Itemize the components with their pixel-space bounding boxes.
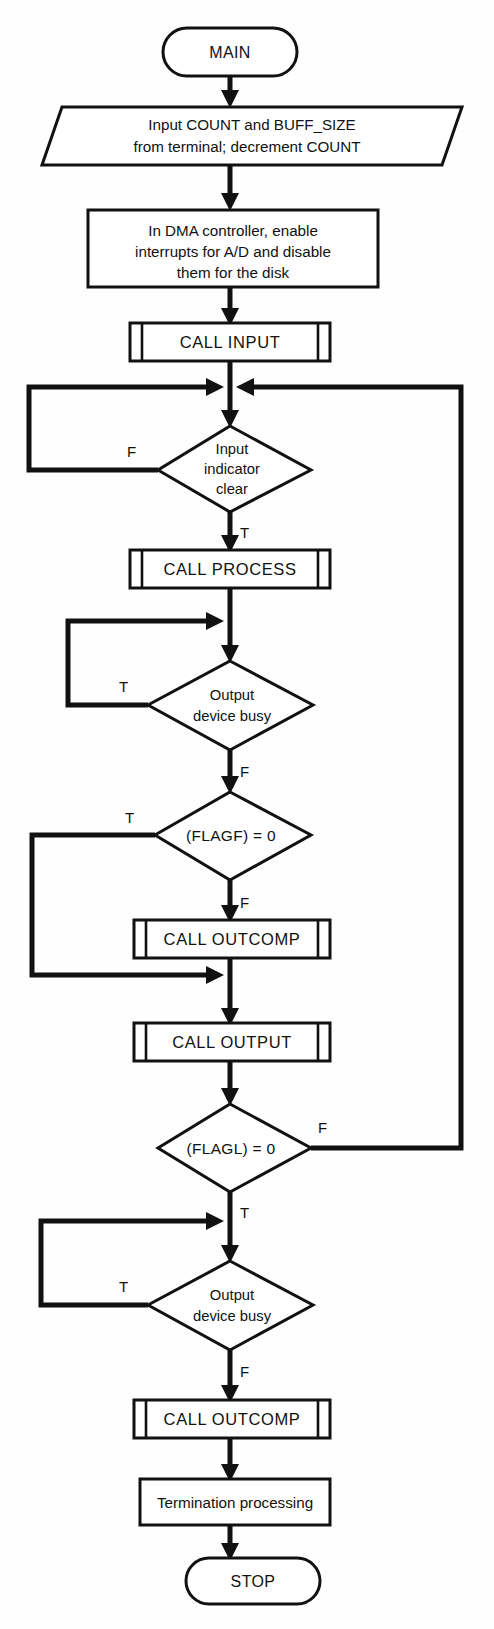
node-dec-busy2-line2: device busy [193, 1308, 272, 1324]
connector-callinput-to-decision1 [221, 361, 239, 428]
node-call-outcomp-1-label: CALL OUTCOMP [164, 930, 301, 948]
node-dec-input-line1: Input [216, 441, 249, 457]
connector-flagf-to-outcomp1 [221, 880, 239, 923]
node-dec-busy1-line2: device busy [193, 708, 272, 724]
node-dec-flagl-label: (FLAGL) = 0 [186, 1140, 275, 1157]
branch-label-flagf-false: F [240, 894, 249, 911]
node-call-process[interactable]: CALL PROCESS [130, 550, 330, 588]
branch-label-flagf-true: T [125, 809, 134, 826]
node-call-output[interactable]: CALL OUTPUT [134, 1023, 330, 1061]
connector-flagl-to-outbusy2 [221, 1192, 239, 1263]
node-termination-label: Termination processing [157, 1494, 313, 1511]
node-decision-flagf[interactable]: (FLAGF) = 0 [155, 792, 311, 880]
connector-outbusy2-to-outcomp2 [221, 1350, 239, 1403]
node-stop[interactable]: STOP [186, 1558, 320, 1604]
node-dec-input-line2: indicator [204, 461, 260, 477]
connector-input-to-dma [221, 166, 239, 211]
node-decision-input-indicator[interactable]: Input indicator clear [158, 426, 311, 512]
node-dma-controller[interactable]: In DMA controller, enable interrupts for… [88, 210, 378, 287]
node-call-output-label: CALL OUTPUT [172, 1033, 292, 1051]
node-input-line1: Input COUNT and BUFF_SIZE [148, 116, 355, 133]
node-dec-busy2-line1: Output [210, 1287, 254, 1303]
node-call-outcomp-1[interactable]: CALL OUTCOMP [134, 920, 330, 958]
node-dma-line2: interrupts for A/D and disable [135, 243, 331, 260]
node-dec-flagf-label: (FLAGF) = 0 [186, 827, 276, 844]
node-call-outcomp-2[interactable]: CALL OUTCOMP [134, 1400, 330, 1438]
branch-label-outbusy1-true: T [119, 678, 128, 695]
connector-output-to-flagl [221, 1061, 239, 1106]
node-call-outcomp-2-label: CALL OUTCOMP [164, 1410, 301, 1428]
node-input-count-buffsize[interactable]: Input COUNT and BUFF_SIZE from terminal;… [42, 107, 462, 165]
node-dma-line3: them for the disk [177, 264, 290, 281]
connector-termination-to-stop [221, 1525, 239, 1561]
connector-outcomp1-to-output [221, 958, 239, 1026]
connector-callprocess-to-outbusy1 [221, 588, 239, 663]
node-decision-flagl[interactable]: (FLAGL) = 0 [158, 1104, 311, 1192]
node-call-process-label: CALL PROCESS [163, 560, 296, 578]
node-stop-label: STOP [231, 1573, 276, 1590]
node-termination-processing[interactable]: Termination processing [140, 1479, 330, 1525]
node-start-main[interactable]: MAIN [163, 28, 297, 76]
node-decision-output-busy-2[interactable]: Output device busy [148, 1261, 313, 1350]
node-dec-input-line3: clear [216, 481, 248, 497]
branch-label-input-indicator-true: T [240, 524, 249, 541]
connector-outbusy1-to-flagf [221, 750, 239, 794]
branch-label-outbusy1-false: F [240, 763, 249, 780]
flowchart-canvas: MAIN Input COUNT and BUFF_SIZE from term… [0, 0, 494, 1629]
node-dec-busy1-line1: Output [210, 687, 254, 703]
connector-outcomp2-to-termination [221, 1438, 239, 1482]
branch-label-outbusy2-false: F [240, 1363, 249, 1380]
connector-start-to-input [221, 76, 239, 108]
branch-label-flagl-false: F [318, 1119, 327, 1136]
branch-label-input-indicator-false: F [127, 443, 136, 460]
connector-dma-to-callinput [221, 287, 239, 326]
node-input-line2: from terminal; decrement COUNT [133, 138, 360, 155]
branch-label-flagl-true: T [240, 1204, 249, 1221]
node-call-input[interactable]: CALL INPUT [130, 323, 330, 361]
node-dma-line1: In DMA controller, enable [148, 222, 318, 239]
node-start-main-label: MAIN [209, 44, 251, 61]
connector-decision1-to-callprocess [221, 512, 239, 553]
node-call-input-label: CALL INPUT [180, 333, 281, 351]
branch-label-outbusy2-true: T [119, 1278, 128, 1295]
node-decision-output-busy-1[interactable]: Output device busy [148, 661, 313, 750]
